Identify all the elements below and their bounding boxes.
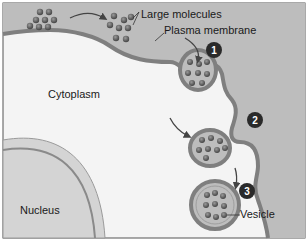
endocytosis-diagram: 1 2 3 Large molecules Plasma membrane Cy… (0, 0, 308, 246)
svg-text:1: 1 (211, 45, 217, 56)
step-badge-1: 1 (206, 42, 222, 58)
step-badge-3: 3 (239, 183, 255, 199)
molecules-vesicle-3 (203, 190, 227, 220)
label-large-molecules: Large molecules (141, 9, 222, 20)
svg-text:2: 2 (252, 115, 258, 126)
label-nucleus: Nucleus (20, 205, 60, 216)
label-plasma-membrane: Plasma membrane (164, 25, 256, 36)
label-cytoplasm: Cytoplasm (48, 89, 100, 100)
step-badge-2: 2 (247, 112, 263, 128)
svg-text:3: 3 (244, 186, 250, 197)
label-vesicle: Vesicle (240, 209, 275, 220)
